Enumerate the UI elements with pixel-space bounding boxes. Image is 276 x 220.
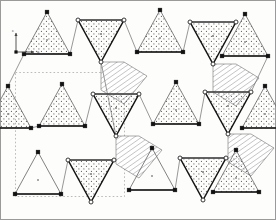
vertex-marker-filled xyxy=(197,122,201,126)
triangle-center-dot xyxy=(46,39,47,40)
vertex-marker-filled xyxy=(127,188,131,192)
vertex-marker-open xyxy=(211,62,215,66)
vertex-marker-open xyxy=(76,18,80,22)
vertex-marker-filled xyxy=(234,148,238,152)
vertex-marker-filled xyxy=(150,146,154,150)
axis-label-c: c xyxy=(12,28,14,33)
vertex-marker-open xyxy=(112,158,116,162)
vertex-marker-open xyxy=(99,60,103,64)
triangle-center-dot xyxy=(175,109,176,110)
vertex-marker-open xyxy=(224,156,228,160)
vertex-marker-open xyxy=(122,18,126,22)
vertex-marker-open xyxy=(203,90,207,94)
triangle-center-dot xyxy=(202,171,203,172)
vertex-marker-open xyxy=(201,198,205,202)
vertex-marker-open xyxy=(89,200,93,204)
vertex-marker-filled xyxy=(240,126,244,130)
vertex-marker-filled xyxy=(13,192,17,196)
vertex-marker-filled xyxy=(158,8,162,12)
vertex-marker-filled xyxy=(173,188,177,192)
vertex-marker-filled xyxy=(6,84,10,88)
vertex-marker-filled xyxy=(22,52,26,56)
figure-canvas: a c xyxy=(0,0,276,220)
triangle-center-dot xyxy=(227,105,228,106)
triangle-center-dot xyxy=(90,173,91,174)
vertex-marker-filled xyxy=(211,190,215,194)
triangle-center-dot xyxy=(7,113,8,114)
vertex-marker-open xyxy=(114,134,118,138)
vertex-marker-filled xyxy=(243,12,247,16)
vertex-marker-filled xyxy=(220,54,224,58)
axis-label-a: a xyxy=(37,49,39,54)
vertex-marker-open xyxy=(234,20,238,24)
axis-origin-marker xyxy=(14,50,17,53)
triangle-center-dot xyxy=(151,175,152,176)
vertex-marker-open xyxy=(188,20,192,24)
vertex-marker-filled xyxy=(29,126,33,130)
triangle-center-dot xyxy=(244,41,245,42)
triangle-center-dot xyxy=(100,33,101,34)
structure-diagram xyxy=(0,0,276,220)
vertex-marker-filled xyxy=(181,50,185,54)
vertex-marker-filled xyxy=(60,82,64,86)
vertex-marker-filled xyxy=(68,52,72,56)
triangle-center-dot xyxy=(159,37,160,38)
triangle-center-dot xyxy=(115,107,116,108)
triangle-center-dot xyxy=(235,177,236,178)
vertex-marker-filled xyxy=(174,80,178,84)
vertex-marker-filled xyxy=(135,50,139,54)
vertex-marker-filled xyxy=(266,54,270,58)
vertex-marker-filled xyxy=(37,124,41,128)
triangle-center-dot xyxy=(37,179,38,180)
vertex-marker-open xyxy=(249,90,253,94)
vertex-marker-open xyxy=(91,92,95,96)
vertex-marker-filled xyxy=(263,84,267,88)
vertex-marker-open xyxy=(66,158,70,162)
vertex-marker-open xyxy=(137,92,141,96)
triangle-center-dot xyxy=(264,113,265,114)
vertex-marker-open xyxy=(178,156,182,160)
triangle-center-dot xyxy=(61,111,62,112)
vertex-marker-filled xyxy=(45,10,49,14)
triangle-center-dot xyxy=(212,35,213,36)
vertex-marker-filled xyxy=(151,122,155,126)
vertex-marker-open xyxy=(226,132,230,136)
vertex-marker-filled xyxy=(36,150,40,154)
vertex-marker-filled xyxy=(83,124,87,128)
vertex-marker-filled xyxy=(257,190,261,194)
vertex-marker-filled xyxy=(59,192,63,196)
